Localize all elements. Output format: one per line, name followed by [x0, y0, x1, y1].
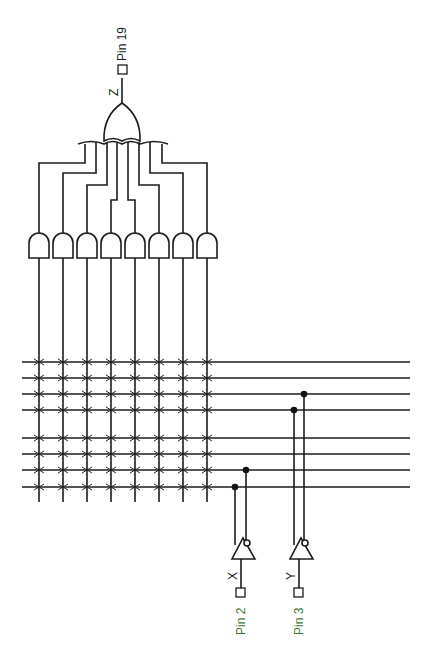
output-signal-label: Z [107, 89, 121, 96]
or-input-wire [139, 142, 159, 233]
or-input-wire [63, 142, 96, 233]
and-gate [197, 233, 217, 258]
or-input-wire [162, 144, 207, 233]
pin-2-box[interactable] [236, 588, 245, 597]
or-input-wire [111, 142, 117, 233]
and-gate [53, 233, 73, 258]
or-input-wire [150, 142, 183, 233]
junction-dot [232, 484, 239, 491]
or-input-wires [39, 142, 207, 233]
and-gate [173, 233, 193, 258]
and-gate-array [29, 233, 217, 258]
or-gate [78, 103, 168, 144]
output-pin-box[interactable] [118, 65, 127, 74]
input-y-buffer [290, 391, 313, 588]
pin-3-label: Pin 3 [292, 607, 306, 635]
product-term-lines [39, 258, 207, 502]
junction-dot [243, 467, 250, 474]
and-gate [149, 233, 169, 258]
junction-dot [301, 391, 308, 398]
input-y-label: Y [284, 572, 298, 580]
diagram-svg: Z Pin 19 X Pin 2 Y [0, 0, 429, 646]
or-input-wire [39, 144, 85, 233]
pin-3-box[interactable] [294, 588, 303, 597]
or-input-wire [87, 142, 107, 233]
junction-dot [291, 407, 298, 414]
output-pin-label: Pin 19 [115, 27, 129, 61]
and-gate [29, 233, 49, 258]
pin-2-label: Pin 2 [234, 607, 248, 635]
and-gate [101, 233, 121, 258]
pal-logic-diagram: Z Pin 19 X Pin 2 Y [0, 0, 429, 646]
and-gate [77, 233, 97, 258]
input-lines [22, 362, 410, 487]
input-x-buffer [232, 467, 255, 588]
and-gate [125, 233, 145, 258]
or-input-wire [128, 142, 135, 233]
input-x-label: X [226, 572, 240, 580]
